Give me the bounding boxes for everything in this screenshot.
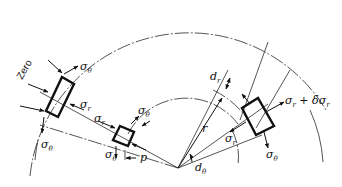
outer-boundary-arc (30, 33, 326, 176)
thick-cylinder-stress-diagram: Zero σθ σr σθ σr σθ σθ p σr + δσr σr σθ … (0, 0, 342, 187)
sigma-theta-right: σθ (266, 148, 279, 163)
radial-lines (40, 42, 290, 168)
middle-arc-lower (232, 130, 239, 165)
sigma-r-inner: σr (94, 112, 106, 127)
outer-arc-right-fragment (310, 110, 323, 162)
radius-r-label: r (202, 122, 208, 135)
zero-label: Zero (14, 57, 34, 81)
outer-arc-left-fragment (35, 140, 38, 160)
sigma-theta-inner-top: σθ (138, 104, 151, 119)
sigma-r-left: σr (80, 98, 92, 113)
inner-surface-element: σr σθ σθ p (94, 104, 151, 164)
outer-surface-element: Zero σθ σr σθ (14, 57, 92, 153)
sigma-r-plus-delta-label: σr + δσr (285, 94, 330, 109)
sigma-theta-bottom-left: σθ (41, 138, 54, 153)
dtheta-label: dθ (195, 161, 207, 176)
pressure-p-label: p (140, 151, 147, 164)
sigma-theta-top-left: σθ (80, 60, 93, 75)
middle-arc (213, 90, 254, 130)
sigma-r-right: σr (225, 132, 237, 147)
dr-label: dr (210, 70, 221, 85)
